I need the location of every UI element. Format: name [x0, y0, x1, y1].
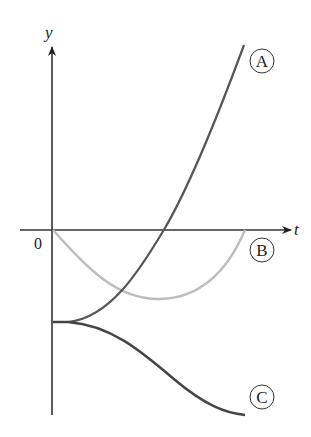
plot-area: y t 0 A B C [0, 0, 311, 437]
label-b: B [250, 238, 274, 262]
chart: y t 0 A B C [0, 0, 311, 437]
origin-label: 0 [34, 235, 42, 252]
svg-text:C: C [256, 388, 267, 407]
t-axis-label: t [294, 220, 300, 239]
svg-text:A: A [256, 52, 269, 71]
label-a: A [250, 49, 274, 73]
curve-c [53, 322, 245, 415]
curve-b [53, 230, 245, 299]
y-axis-label: y [43, 23, 53, 42]
curve-a [53, 45, 244, 322]
label-c: C [250, 385, 274, 409]
svg-text:B: B [256, 241, 267, 260]
